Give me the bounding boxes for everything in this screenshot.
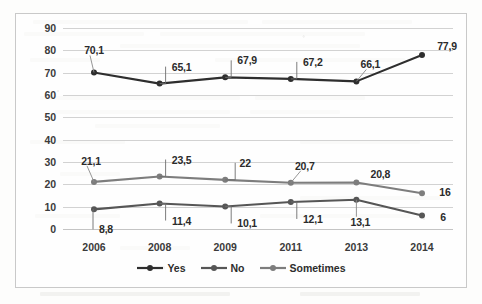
y-axis-tick-0: 0 bbox=[50, 223, 56, 235]
data-point-sometimes-2014[interactable] bbox=[419, 190, 425, 196]
data-label-sometimes-2013: 20,8 bbox=[371, 168, 391, 180]
data-label-yes-2006: 70,1 bbox=[84, 44, 104, 56]
legend-item-yes[interactable]: Yes bbox=[136, 262, 185, 274]
data-label-sometimes-2009: 22 bbox=[240, 157, 251, 169]
data-label-no-2013: 13,1 bbox=[351, 216, 371, 228]
x-axis-tick-2008: 2008 bbox=[148, 241, 171, 253]
data-label-yes-2009: 67,9 bbox=[237, 54, 257, 66]
data-point-yes-2014[interactable] bbox=[419, 52, 425, 58]
legend-label-no: No bbox=[231, 262, 245, 274]
legend-swatch-sometimes bbox=[259, 263, 287, 273]
data-label-no-2008: 11,4 bbox=[172, 215, 191, 227]
x-axis-tick-2011: 2011 bbox=[279, 241, 302, 253]
y-axis-tick-60: 60 bbox=[45, 89, 56, 101]
data-label-yes-2013: 66,1 bbox=[361, 58, 381, 70]
legend-swatch-yes bbox=[136, 263, 164, 273]
data-label-yes-2011: 67,2 bbox=[303, 56, 323, 68]
series-lines-svg bbox=[63, 28, 453, 229]
leader-line bbox=[90, 55, 94, 72]
data-label-yes-2014: 77,9 bbox=[437, 40, 457, 52]
y-axis-tick-90: 90 bbox=[45, 22, 56, 34]
y-axis-tick-40: 40 bbox=[45, 134, 56, 146]
y-axis-tick-10: 10 bbox=[45, 201, 56, 213]
x-axis-tick-2014: 2014 bbox=[410, 241, 433, 253]
legend-label-sometimes: Sometimes bbox=[290, 262, 346, 274]
x-axis-tick-2009: 2009 bbox=[214, 241, 237, 253]
leader-line bbox=[291, 171, 301, 183]
data-label-sometimes-2014: 16 bbox=[439, 186, 450, 198]
chart-plot-area: 9080706050403020100 20062008200920112013… bbox=[63, 28, 453, 229]
gridline-0 bbox=[63, 229, 453, 230]
legend-swatch-no bbox=[200, 263, 228, 273]
leader-line bbox=[87, 166, 94, 182]
scanned-page-background: 9080706050403020100 20062008200920112013… bbox=[0, 0, 482, 304]
data-label-yes-2008: 65,1 bbox=[172, 61, 192, 73]
leader-line bbox=[93, 209, 94, 229]
data-label-sometimes-2008: 23,5 bbox=[172, 154, 192, 166]
data-label-no-2006: 8,8 bbox=[99, 223, 113, 235]
legend-item-no[interactable]: No bbox=[200, 262, 245, 274]
data-label-no-2014: 6 bbox=[440, 211, 446, 223]
data-point-sometimes-2013[interactable] bbox=[353, 180, 359, 186]
y-axis-tick-20: 20 bbox=[45, 178, 56, 190]
data-label-sometimes-2006: 21,1 bbox=[81, 155, 101, 167]
data-point-no-2014[interactable] bbox=[419, 213, 425, 219]
chart-plot-frame: 9080706050403020100 20062008200920112013… bbox=[15, 13, 467, 288]
x-axis-tick-2013: 2013 bbox=[345, 241, 368, 253]
y-axis-tick-30: 30 bbox=[45, 156, 56, 168]
x-axis-tick-2006: 2006 bbox=[82, 241, 105, 253]
chart-legend: YesNoSometimes bbox=[16, 262, 466, 274]
data-label-no-2011: 12,1 bbox=[303, 213, 323, 225]
legend-item-sometimes[interactable]: Sometimes bbox=[259, 262, 346, 274]
y-axis-tick-70: 70 bbox=[45, 67, 56, 79]
data-label-sometimes-2011: 20,7 bbox=[295, 160, 315, 172]
series-line-no bbox=[94, 200, 422, 216]
data-label-no-2009: 10,1 bbox=[237, 217, 257, 229]
legend-label-yes: Yes bbox=[167, 262, 185, 274]
y-axis-tick-50: 50 bbox=[45, 111, 56, 123]
y-axis-tick-80: 80 bbox=[45, 44, 56, 56]
